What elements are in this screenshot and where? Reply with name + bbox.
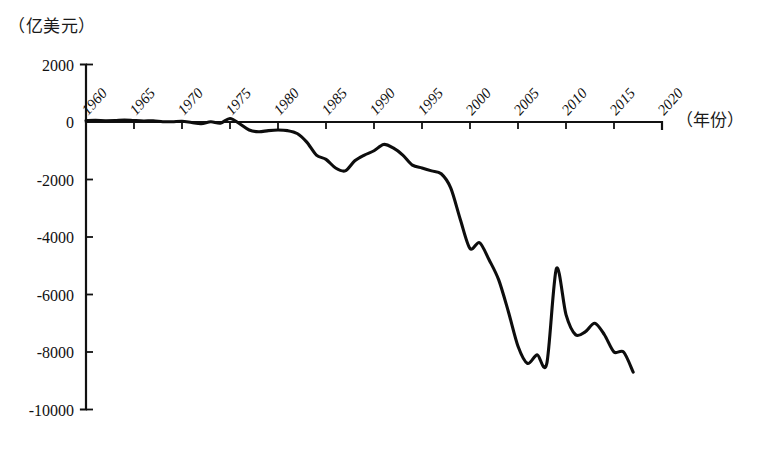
x-tick-label: 2010 bbox=[558, 85, 590, 118]
x-tick-label: 1975 bbox=[222, 85, 254, 118]
y-tick-label: -8000 bbox=[37, 344, 74, 361]
x-tick-label: 2015 bbox=[606, 85, 638, 118]
y-tick-label-group: 20000-2000-4000-6000-8000-10000 bbox=[29, 57, 74, 419]
data-series-line bbox=[86, 119, 633, 373]
chart-container: （亿美元） （年份） 20000-2000-4000-6000-8000-100… bbox=[0, 0, 766, 463]
x-tick-label: 2020 bbox=[654, 85, 686, 118]
y-tick-label: 2000 bbox=[42, 57, 74, 74]
y-tick-label: -4000 bbox=[37, 229, 74, 246]
y-tick-label: -6000 bbox=[37, 287, 74, 304]
x-tick-label: 2000 bbox=[462, 85, 494, 118]
y-tick-label: -10000 bbox=[29, 402, 74, 419]
x-tick-label-group: 1960196519701975198019851990199520002005… bbox=[78, 85, 686, 118]
y-tick-label: -2000 bbox=[37, 172, 74, 189]
x-tick-label: 1970 bbox=[174, 85, 206, 118]
x-tick-label: 1980 bbox=[270, 85, 302, 118]
y-axis-line bbox=[81, 65, 86, 410]
x-tick-label: 1960 bbox=[78, 85, 110, 118]
x-tick-label: 1965 bbox=[126, 85, 158, 118]
x-tick-label: 2005 bbox=[510, 85, 542, 118]
x-tick-label: 1985 bbox=[318, 85, 350, 118]
y-tick-label: 0 bbox=[66, 114, 74, 131]
trade-balance-line-chart: 20000-2000-4000-6000-8000-10000 19601965… bbox=[0, 0, 766, 463]
x-tick-label: 1990 bbox=[366, 85, 398, 118]
x-tick-label: 1995 bbox=[414, 85, 446, 118]
